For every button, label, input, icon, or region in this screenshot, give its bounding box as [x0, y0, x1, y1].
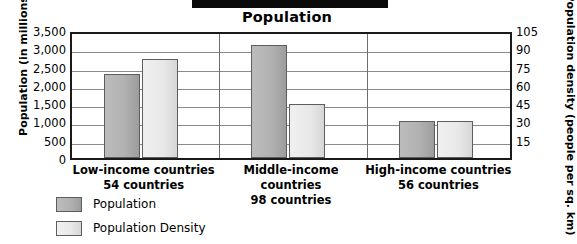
bar: [399, 121, 435, 158]
plot-area: [70, 32, 512, 160]
y-axis-left-tick: 1,000: [33, 118, 66, 129]
legend-swatch: [56, 197, 82, 212]
category-label-name: Middle-income countries: [243, 163, 338, 192]
legend-label: Population Density: [93, 221, 205, 235]
bar: [437, 121, 473, 158]
bar: [142, 59, 178, 158]
category-label: Low-income countries54 countries: [70, 163, 217, 193]
category-label-count: 56 countries: [365, 178, 512, 193]
bar: [104, 74, 140, 158]
y-axis-left-tick: 3,500: [33, 27, 66, 38]
legend-swatch: [56, 221, 82, 236]
chart-title: Population: [0, 9, 574, 25]
y-axis-right-tick: 105: [516, 27, 538, 38]
y-axis-left-tick: 500: [44, 137, 66, 148]
legend-label: Population: [93, 197, 156, 211]
y-axis-right-tick: 15: [516, 137, 531, 148]
category-label-count: 98 countries: [217, 193, 364, 208]
y-axis-left-tick: 1,500: [33, 100, 66, 111]
category-label: Middle-income countries98 countries: [217, 163, 364, 208]
gridline: [72, 71, 510, 72]
y-axis-right-title: Population density (people per sq. km): [564, 0, 577, 244]
y-axis-left-tick: 3,000: [33, 45, 66, 56]
y-axis-right-tick: 45: [516, 100, 531, 111]
gridline: [72, 52, 510, 53]
category-divider: [367, 34, 368, 158]
bar: [289, 104, 325, 158]
y-axis-left-tick: 2,000: [33, 82, 66, 93]
y-axis-left-tick: 2,500: [33, 64, 66, 75]
category-label: High-income countries56 countries: [365, 163, 512, 193]
y-axis-right-tick: 30: [516, 118, 531, 129]
chart-legend: PopulationPopulation Density: [56, 192, 205, 240]
y-axis-right-tick: 75: [516, 64, 531, 75]
category-divider: [219, 34, 220, 158]
category-label-name: High-income countries: [365, 163, 511, 177]
category-label-name: Low-income countries: [73, 163, 215, 177]
bar: [251, 45, 287, 158]
y-axis-right-tick: 90: [516, 45, 531, 56]
y-axis-left-ticks: 3,5003,0002,5002,0001,5001,0005000: [18, 32, 66, 160]
legend-item: Population Density: [56, 216, 205, 240]
y-axis-right-ticks: 105907560453015: [516, 32, 546, 160]
category-label-count: 54 countries: [70, 178, 217, 193]
plot-inner: [72, 34, 510, 158]
legend-item: Population: [56, 192, 205, 216]
page-header-bar: [192, 0, 388, 8]
y-axis-right-tick: 60: [516, 82, 531, 93]
y-axis-left-tick: 0: [59, 155, 66, 166]
